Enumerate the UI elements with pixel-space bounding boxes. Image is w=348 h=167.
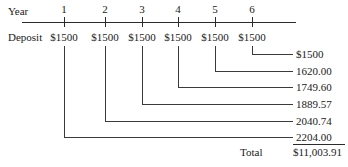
connector-vertical-year-1 [64,46,65,138]
future-value-from-year-1: 2204.00 [296,132,332,143]
axis-tick-year-6 [252,17,253,27]
axis-label-year-6: 6 [249,4,255,15]
axis-label-year-2: 2 [102,4,108,15]
annuity-timeline-diagram: Year Deposit 1 2 3 4 5 6 $1500 $1500 $15… [0,0,348,167]
axis-tick-year-5 [215,17,216,27]
connector-vertical-year-2 [105,46,106,122]
connector-vertical-year-3 [142,46,143,105]
deposit-amount-year-5: $1500 [201,32,229,43]
total-value: $11,003.91 [293,147,342,158]
connector-horizontal-year-5 [215,71,293,72]
future-value-from-year-6: $1500 [296,49,324,60]
axis-tick-year-1 [64,17,65,27]
connector-horizontal-year-4 [178,87,293,88]
connector-horizontal-year-1 [64,137,293,138]
axis-label-year-3: 3 [139,4,145,15]
axis-label-year-4: 4 [175,4,181,15]
deposit-amount-year-1: $1500 [50,32,78,43]
future-value-from-year-3: 1889.57 [296,99,332,110]
total-underline [293,144,345,145]
axis-tick-year-2 [105,17,106,27]
future-value-from-year-2: 2040.74 [296,116,332,127]
axis-tick-year-3 [142,17,143,27]
axis-tick-year-4 [178,17,179,27]
future-value-from-year-5: 1620.00 [296,66,332,77]
deposit-amount-year-3: $1500 [128,32,156,43]
deposit-amount-year-4: $1500 [164,32,192,43]
total-label: Total [240,147,262,158]
axis-label-year-5: 5 [212,4,218,15]
future-value-from-year-4: 1749.60 [296,82,332,93]
connector-vertical-year-4 [178,46,179,88]
connector-vertical-year-5 [215,46,216,72]
deposit-row-label: Deposit [8,32,42,43]
year-row-label: Year [8,6,28,17]
connector-horizontal-year-3 [142,104,293,105]
deposit-amount-year-2: $1500 [91,32,119,43]
connector-horizontal-year-6 [252,54,293,55]
axis-label-year-1: 1 [61,4,67,15]
connector-horizontal-year-2 [105,121,293,122]
deposit-amount-year-6: $1500 [238,32,266,43]
